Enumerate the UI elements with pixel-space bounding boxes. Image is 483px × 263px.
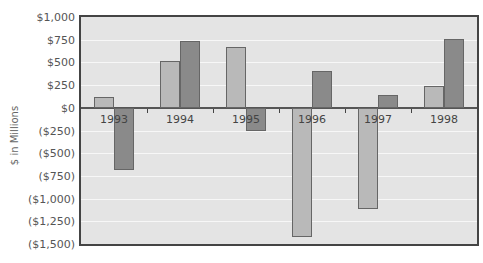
y-tick-label: ($500) [38, 147, 75, 160]
y-tick-label: ($250) [38, 124, 75, 137]
bar [312, 71, 332, 107]
plot-area: 199319941995199619971998 [79, 15, 479, 246]
gridline [81, 221, 477, 222]
x-tick-mark [345, 109, 346, 113]
bar [180, 41, 200, 108]
bar [94, 97, 114, 108]
gridline [81, 131, 477, 132]
x-tick-label: 1994 [166, 113, 194, 126]
gridline [81, 199, 477, 200]
x-tick-mark [279, 109, 280, 113]
x-tick-label: 1995 [232, 113, 260, 126]
bar [424, 86, 444, 108]
x-tick-mark [411, 109, 412, 113]
x-tick-mark [213, 109, 214, 113]
x-tick-mark [147, 109, 148, 113]
gridline [81, 85, 477, 86]
bar [378, 95, 398, 108]
y-tick-label: $250 [47, 79, 75, 92]
bar [292, 108, 312, 237]
y-tick-label: ($1,500) [28, 238, 75, 251]
y-tick-label: $500 [47, 56, 75, 69]
x-tick-label: 1996 [298, 113, 326, 126]
gridline [81, 153, 477, 154]
x-tick-label: 1993 [100, 113, 128, 126]
bar [160, 61, 180, 108]
gridline [81, 40, 477, 41]
gridline [81, 62, 477, 63]
y-tick-label: $750 [47, 33, 75, 46]
y-tick-label: ($1,000) [28, 192, 75, 205]
x-tick-label: 1997 [364, 113, 392, 126]
y-axis-label: $ in Millions [9, 96, 20, 176]
bar [444, 39, 464, 108]
y-tick-label: ($750) [38, 169, 75, 182]
y-tick-label: $1,000 [37, 11, 76, 24]
bar [226, 47, 246, 108]
gridline [81, 176, 477, 177]
y-tick-label: ($1,250) [28, 215, 75, 228]
x-tick-label: 1998 [430, 113, 458, 126]
y-tick-label: $0 [61, 101, 75, 114]
